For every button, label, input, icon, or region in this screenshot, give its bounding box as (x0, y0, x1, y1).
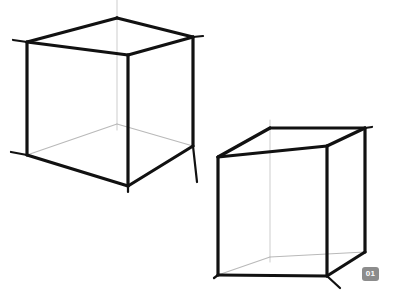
visible-edge (128, 37, 193, 55)
edge-overshoot (327, 276, 340, 288)
visible-edge (27, 42, 128, 55)
page-number-badge: 01 (362, 267, 379, 281)
cube-small (214, 120, 372, 288)
hidden-edge (270, 252, 365, 257)
cube-scene (0, 0, 393, 296)
visible-edge (327, 128, 365, 146)
hidden-edge (218, 257, 270, 275)
visible-edge (128, 146, 193, 186)
visible-edge (117, 18, 193, 37)
visible-edge (27, 155, 128, 186)
scene-layer (11, 0, 372, 288)
edge-overshoot (11, 152, 27, 155)
hidden-edge (27, 124, 117, 155)
cube-large (11, 0, 203, 192)
visible-edge (327, 252, 365, 276)
edge-overshoot (13, 40, 27, 42)
visible-edge (27, 18, 117, 42)
visible-edge (218, 275, 327, 276)
drawing-canvas: 01 (0, 0, 393, 296)
edge-overshoot (193, 146, 197, 182)
